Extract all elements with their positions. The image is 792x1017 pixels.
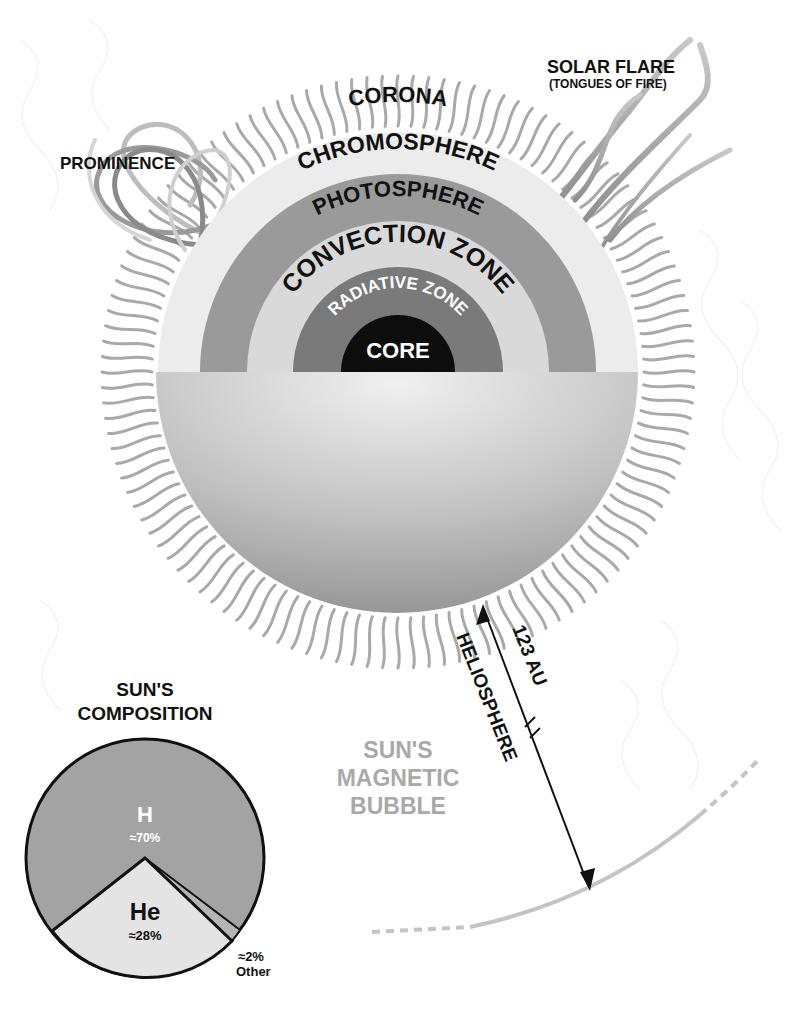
corona-ray bbox=[641, 325, 690, 333]
corona-ray bbox=[250, 116, 275, 159]
corona-ray bbox=[321, 86, 334, 134]
bubble-line-1: SUN'S bbox=[363, 737, 432, 763]
pie-value-other: ≈2% bbox=[238, 949, 264, 964]
corona-ray bbox=[336, 83, 347, 132]
corona-ray bbox=[589, 527, 628, 559]
corona-ray bbox=[237, 124, 264, 166]
corona-ray bbox=[337, 613, 347, 662]
composition-title-2: COMPOSITION bbox=[77, 703, 212, 724]
corona-ray bbox=[189, 546, 224, 581]
corona-ray bbox=[543, 571, 572, 612]
composition-title-1: SUN'S bbox=[116, 679, 173, 700]
corona-ray bbox=[168, 527, 207, 559]
corona-ray bbox=[212, 563, 244, 602]
corona-ray bbox=[142, 495, 185, 520]
corona-ray bbox=[553, 563, 585, 602]
corona-ray bbox=[644, 356, 694, 360]
label-solar-flare-sub: (TONGUES OF FIRE) bbox=[549, 77, 667, 91]
pie-value-he: ≈28% bbox=[128, 928, 162, 943]
corona-ray bbox=[641, 411, 690, 419]
bubble-line-3: BUBBLE bbox=[350, 793, 446, 819]
corona-ray bbox=[632, 281, 680, 297]
pie-value-h: ≈70% bbox=[130, 831, 161, 845]
corona-ray bbox=[102, 357, 152, 360]
corona-ray bbox=[117, 448, 165, 464]
corona-ray bbox=[423, 617, 429, 667]
corona-ray bbox=[104, 341, 154, 346]
label-heliosphere: HELIOSPHERE bbox=[452, 630, 522, 765]
label-core: CORE bbox=[366, 338, 430, 363]
corona-ray bbox=[644, 371, 694, 374]
corona-ray bbox=[639, 423, 688, 433]
corona-ray bbox=[178, 537, 215, 571]
corona-ray bbox=[200, 555, 234, 592]
sun-diagram: CORONA CHROMOSPHERE PHOTOSPHERE CONVECTI… bbox=[0, 0, 792, 1017]
corona-ray bbox=[581, 537, 618, 571]
corona-ray bbox=[436, 615, 444, 664]
corona-ray bbox=[462, 86, 475, 134]
corona-ray bbox=[102, 371, 152, 374]
corona-ray bbox=[572, 546, 607, 581]
corona-ray bbox=[449, 83, 459, 132]
corona-ray bbox=[106, 410, 155, 418]
corona-ray bbox=[307, 606, 323, 654]
corona-ray bbox=[397, 618, 400, 668]
corona-ray bbox=[106, 326, 155, 334]
corona-ray bbox=[644, 385, 694, 388]
corona-ray bbox=[636, 295, 684, 308]
magnetic-bubble-label: SUN'S MAGNETIC BUBBLE bbox=[337, 737, 460, 819]
corona-ray bbox=[532, 578, 559, 620]
corona-ray bbox=[102, 384, 152, 388]
corona-ray bbox=[639, 310, 688, 321]
corona-ray bbox=[474, 91, 490, 139]
corona-ray bbox=[109, 311, 158, 321]
corona-ray bbox=[104, 397, 154, 403]
label-solar-flare: SOLAR FLARE bbox=[547, 57, 675, 77]
corona-ray bbox=[128, 252, 174, 272]
corona-ray bbox=[636, 436, 684, 449]
bubble-line-2: MAGNETIC bbox=[337, 765, 460, 791]
corona-ray bbox=[643, 341, 693, 347]
corona-ray bbox=[112, 295, 160, 308]
label-prominence: PROMINENCE bbox=[60, 154, 175, 173]
corona-ray bbox=[410, 618, 414, 668]
corona-ray bbox=[498, 102, 518, 148]
corona-ray bbox=[321, 610, 334, 658]
corona-ray bbox=[122, 266, 169, 284]
corona-ray bbox=[352, 615, 360, 664]
corona-ray bbox=[112, 436, 160, 449]
corona-ray bbox=[159, 517, 200, 546]
corona-ray bbox=[383, 618, 386, 668]
corona-ray bbox=[521, 585, 546, 628]
corona-ray bbox=[109, 423, 158, 434]
corona-ray bbox=[307, 91, 323, 139]
corona-ray bbox=[643, 398, 693, 403]
pie-label-he: He bbox=[130, 898, 161, 925]
corona-ray bbox=[278, 597, 298, 643]
corona-ray bbox=[367, 617, 372, 667]
corona-ray bbox=[563, 555, 597, 592]
corona-ray bbox=[117, 281, 165, 297]
corona-ray bbox=[150, 506, 192, 533]
corona-ray bbox=[292, 602, 310, 649]
corona-ray bbox=[632, 448, 680, 464]
corona-ray bbox=[486, 96, 504, 143]
pie-label-other: Other bbox=[236, 964, 271, 979]
label-distance-au: 123 AU bbox=[508, 622, 551, 689]
pie-label-h: H bbox=[137, 802, 153, 827]
sun-hemisphere bbox=[156, 372, 638, 613]
corona-ray bbox=[628, 460, 675, 478]
corona-ray bbox=[623, 472, 669, 492]
